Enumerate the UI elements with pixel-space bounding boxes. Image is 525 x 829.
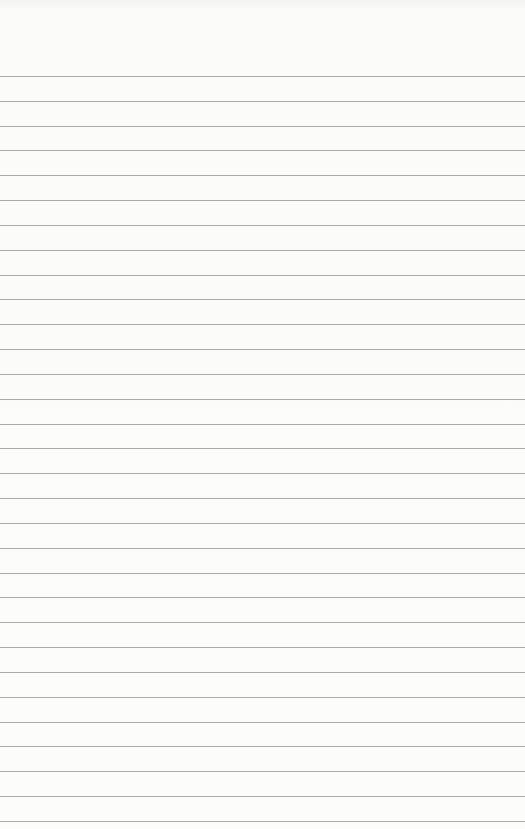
ruled-line	[0, 399, 525, 400]
ruled-line	[0, 324, 525, 325]
ruled-line	[0, 796, 525, 797]
ruled-line	[0, 722, 525, 723]
ruled-line	[0, 126, 525, 127]
ruled-line	[0, 597, 525, 598]
ruled-line	[0, 448, 525, 449]
ruled-line	[0, 473, 525, 474]
ruled-line	[0, 647, 525, 648]
ruled-line	[0, 424, 525, 425]
ruled-line	[0, 374, 525, 375]
ruled-line	[0, 672, 525, 673]
lined-paper-sheet	[0, 0, 525, 829]
ruled-line	[0, 150, 525, 151]
ruled-line	[0, 225, 525, 226]
ruled-line	[0, 821, 525, 822]
ruled-line	[0, 200, 525, 201]
ruled-line	[0, 275, 525, 276]
ruled-line	[0, 746, 525, 747]
ruled-line	[0, 697, 525, 698]
ruled-line	[0, 548, 525, 549]
ruled-line	[0, 250, 525, 251]
ruled-line	[0, 349, 525, 350]
ruled-line	[0, 498, 525, 499]
ruled-line	[0, 523, 525, 524]
ruled-line	[0, 622, 525, 623]
ruled-line	[0, 771, 525, 772]
ruled-line	[0, 76, 525, 77]
ruled-line	[0, 175, 525, 176]
ruled-line	[0, 101, 525, 102]
ruled-line	[0, 299, 525, 300]
ruled-line	[0, 573, 525, 574]
